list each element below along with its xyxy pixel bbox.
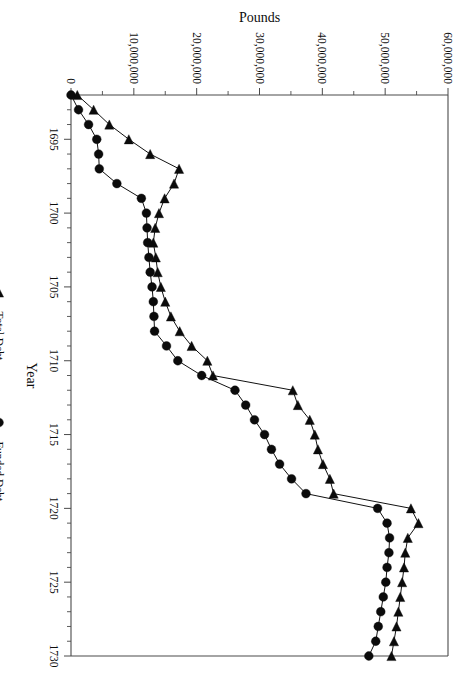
x-axis-tick-label: 1715 <box>48 423 60 446</box>
data-point-marker <box>302 489 311 498</box>
data-point-marker <box>329 489 338 498</box>
data-point-marker <box>95 164 104 173</box>
data-point-marker <box>385 533 394 542</box>
data-point-marker <box>392 622 401 631</box>
data-point-marker <box>160 194 169 203</box>
data-point-marker <box>173 356 182 365</box>
data-point-marker <box>74 105 83 114</box>
data-point-marker <box>143 238 152 247</box>
data-point-marker <box>161 297 170 306</box>
data-point-marker <box>174 164 183 173</box>
data-point-marker <box>149 297 158 306</box>
data-point-marker <box>374 622 383 631</box>
data-point-marker <box>150 312 159 321</box>
y-axis-tick-label: 0 <box>65 78 77 84</box>
data-point-marker <box>148 283 157 292</box>
data-point-marker <box>371 637 380 646</box>
data-point-marker <box>401 548 410 557</box>
legend-triangle-icon <box>0 288 4 297</box>
data-point-marker <box>137 194 146 203</box>
x-axis-tick-label: 1730 <box>48 645 60 668</box>
data-point-marker <box>414 519 423 528</box>
y-axis-tick-label: 50,000,000 <box>378 32 391 84</box>
y-axis-tick-label: 10,000,000 <box>127 32 140 84</box>
data-point-marker <box>142 209 151 218</box>
data-point-marker <box>143 223 152 232</box>
data-point-marker <box>94 150 103 159</box>
data-point-marker <box>156 282 165 291</box>
chart-figure-rotated: 16951700170517101715172017251730Year010,… <box>0 0 476 674</box>
data-point-marker <box>166 312 175 321</box>
data-point-marker <box>383 563 392 572</box>
data-point-marker <box>154 209 163 218</box>
data-point-marker <box>124 135 133 144</box>
series-funded-debt[interactable] <box>67 91 394 661</box>
data-point-marker <box>150 327 159 336</box>
x-axis-tick-label: 1705 <box>48 275 60 298</box>
legend-label: Total Debt <box>0 312 5 362</box>
data-point-marker <box>325 474 334 483</box>
x-axis-title: Year <box>24 363 39 389</box>
x-axis-tick-label: 1700 <box>48 202 60 225</box>
data-point-marker <box>406 504 415 513</box>
data-point-marker <box>381 578 390 587</box>
x-axis-tick-label: 1725 <box>48 571 60 594</box>
data-point-marker <box>399 563 408 572</box>
data-point-marker <box>403 533 412 542</box>
x-axis-tick-label: 1695 <box>48 128 60 151</box>
data-point-marker <box>385 548 394 557</box>
data-point-marker <box>112 179 121 188</box>
data-point-marker <box>310 430 319 439</box>
data-point-marker <box>394 607 403 616</box>
national-debt-line-chart[interactable]: 16951700170517101715172017251730Year010,… <box>0 0 476 674</box>
y-axis-tick-label: 20,000,000 <box>190 32 203 84</box>
data-point-marker <box>389 637 398 646</box>
data-point-marker <box>288 386 297 395</box>
legend-circle-icon <box>0 418 3 427</box>
legend-item-funded-debt[interactable]: Funded Debt <box>0 411 5 503</box>
data-point-marker <box>197 371 206 380</box>
data-point-marker <box>313 445 322 454</box>
data-point-marker <box>373 504 382 513</box>
data-point-marker <box>376 607 385 616</box>
data-point-marker <box>267 445 276 454</box>
y-axis-tick-label: 60,000,000 <box>441 32 454 84</box>
data-point-marker <box>145 253 154 262</box>
data-point-marker <box>275 460 284 469</box>
data-point-marker <box>231 386 240 395</box>
series-total-debt[interactable] <box>73 90 423 660</box>
data-point-marker <box>175 327 184 336</box>
data-point-marker <box>396 592 405 601</box>
legend-item-total-debt[interactable]: Total Debt <box>0 281 5 362</box>
data-point-marker <box>146 268 155 277</box>
data-point-marker <box>241 401 250 410</box>
legend-label: Funded Debt <box>0 442 5 503</box>
x-axis-tick-label: 1720 <box>48 497 60 520</box>
data-point-marker <box>364 652 373 661</box>
data-point-marker <box>162 342 171 351</box>
data-point-marker <box>151 223 160 232</box>
data-point-marker <box>287 474 296 483</box>
chart-figure: 16951700170517101715172017251730Year010,… <box>0 0 476 674</box>
y-axis-tick-label: 40,000,000 <box>315 32 328 84</box>
data-point-marker <box>250 415 259 424</box>
data-point-marker <box>318 459 327 468</box>
series-line-0 <box>77 95 418 656</box>
data-point-marker <box>146 149 155 158</box>
series-line-1 <box>71 95 390 656</box>
x-axis-tick-label: 1710 <box>48 349 60 372</box>
data-point-marker <box>92 135 101 144</box>
y-axis-title: Pounds <box>239 10 280 25</box>
data-point-marker <box>383 519 392 528</box>
data-point-marker <box>169 179 178 188</box>
data-point-marker <box>293 400 302 409</box>
data-point-marker <box>398 578 407 587</box>
data-point-marker <box>379 593 388 602</box>
data-point-marker <box>67 91 76 100</box>
data-point-marker <box>84 120 93 129</box>
data-point-marker <box>260 430 269 439</box>
y-axis-tick-label: 30,000,000 <box>253 32 266 84</box>
